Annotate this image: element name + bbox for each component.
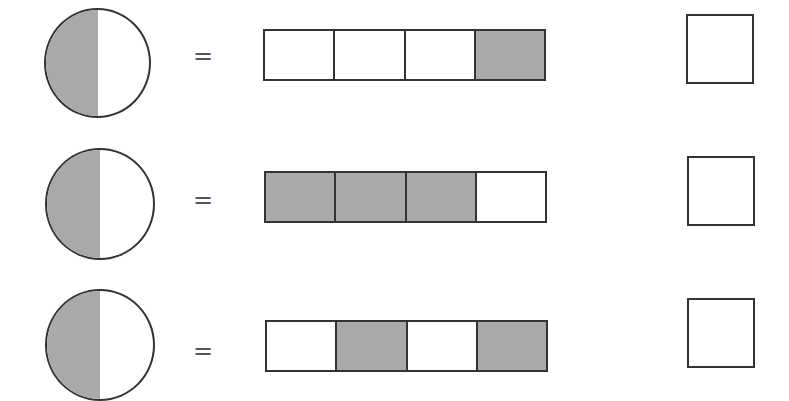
- bar-cell-shaded: [336, 173, 406, 221]
- shaded-half: [47, 291, 100, 399]
- bar-cell-shaded: [478, 322, 546, 370]
- bar-cell: [477, 173, 545, 221]
- bar-cell: [408, 322, 478, 370]
- bar-cell-shaded: [266, 173, 336, 221]
- bar-cell: [267, 322, 337, 370]
- answer-box[interactable]: [687, 298, 755, 368]
- shaded-half: [47, 150, 100, 258]
- equals-sign: =: [193, 188, 213, 212]
- half-shaded-circle: [45, 148, 155, 260]
- bar-cell-shaded: [337, 322, 407, 370]
- bar-cell-shaded: [407, 173, 477, 221]
- fraction-bar: [265, 320, 548, 372]
- fraction-bar: [264, 171, 547, 223]
- answer-box[interactable]: [687, 156, 755, 226]
- equals-sign: =: [193, 339, 213, 363]
- problem-row-3: =: [0, 0, 789, 120]
- half-shaded-circle: [45, 289, 155, 401]
